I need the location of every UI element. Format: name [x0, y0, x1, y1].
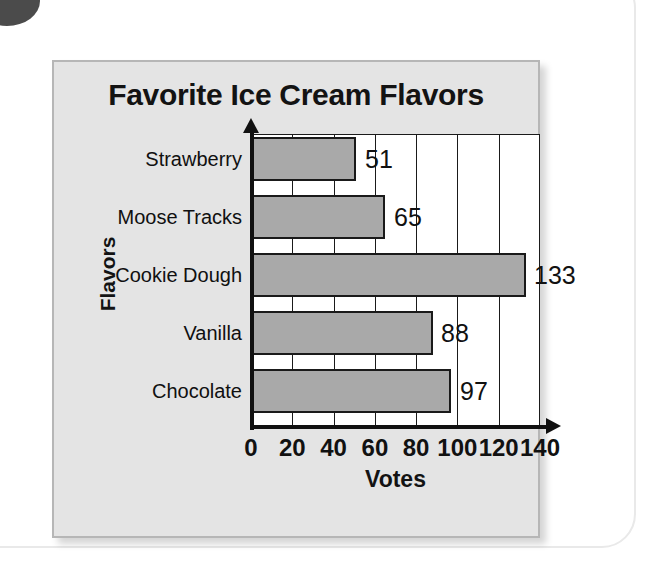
x-tick-60: 60 — [362, 434, 389, 462]
x-axis-title: Votes — [251, 466, 540, 493]
category-label-strawberry: Strawberry — [94, 137, 242, 181]
y-axis-line — [250, 124, 254, 430]
category-label-chocolate: Chocolate — [94, 369, 242, 413]
category-label-vanilla: Vanilla — [94, 311, 242, 355]
bar-value-chocolate: 97 — [460, 369, 488, 413]
x-tick-80: 80 — [403, 434, 430, 462]
x-tick-0: 0 — [244, 434, 257, 462]
x-axis-line — [250, 425, 548, 429]
bar-cookie-dough — [251, 253, 526, 297]
bar-value-cookie-dough: 133 — [534, 253, 576, 297]
x-tick-40: 40 — [320, 434, 347, 462]
category-label-cookie-dough: Cookie Dough — [94, 253, 242, 297]
bar-value-moose-tracks: 65 — [394, 195, 422, 239]
x-tick-100: 100 — [437, 434, 477, 462]
chart-title: Favorite Ice Cream Flavors — [54, 78, 538, 112]
y-axis-category-labels: Strawberry Moose Tracks Cookie Dough Van… — [94, 137, 242, 427]
bar-strawberry — [251, 137, 356, 181]
bar-vanilla — [251, 311, 433, 355]
x-tick-20: 20 — [279, 434, 306, 462]
category-label-moose-tracks: Moose Tracks — [94, 195, 242, 239]
chart-panel: Favorite Ice Cream Flavors Flavors Straw… — [52, 60, 540, 538]
x-axis-arrow-icon — [546, 418, 561, 434]
bar-chocolate — [251, 369, 451, 413]
x-axis-tick-labels: 0 20 40 60 80 100 120 140 — [251, 434, 551, 464]
bar-value-vanilla: 88 — [441, 311, 469, 355]
bar-moose-tracks — [251, 195, 385, 239]
y-axis-arrow-icon — [243, 118, 259, 133]
x-tick-120: 120 — [479, 434, 519, 462]
bar-value-strawberry: 51 — [365, 137, 393, 181]
x-tick-140: 140 — [520, 434, 560, 462]
plot-area: 51 65 133 88 97 0 20 40 60 80 100 120 14… — [251, 134, 540, 437]
